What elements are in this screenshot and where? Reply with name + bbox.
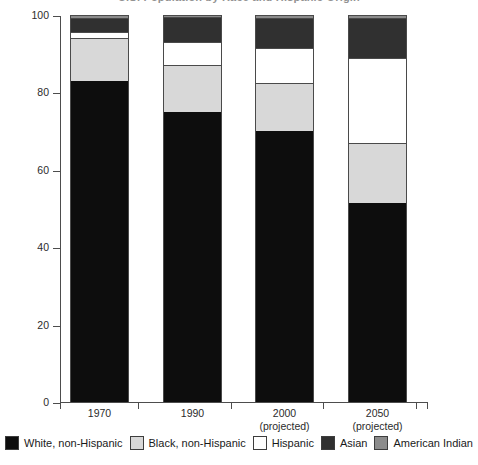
bar-segment[interactable] bbox=[348, 143, 407, 203]
y-axis-tick-label: 100 bbox=[31, 9, 49, 21]
x-axis-label-year: 2000 bbox=[273, 407, 296, 419]
legend-label: Black, non-Hispanic bbox=[149, 437, 246, 449]
legend-label: American Indian bbox=[393, 437, 473, 449]
x-axis-label-note: (projected) bbox=[328, 420, 428, 433]
bar-segment[interactable] bbox=[70, 81, 129, 402]
bar-segment[interactable] bbox=[70, 38, 129, 81]
y-axis-line bbox=[60, 16, 61, 403]
bar-segment[interactable] bbox=[255, 18, 314, 48]
x-axis-label-year: 2050 bbox=[366, 407, 389, 419]
legend-swatch-icon bbox=[5, 436, 19, 450]
x-axis-label: 1990 bbox=[143, 407, 243, 420]
legend-item[interactable]: American Indian bbox=[374, 436, 473, 450]
bar-1970[interactable] bbox=[70, 15, 129, 402]
bar-segment[interactable] bbox=[255, 131, 314, 402]
bar-1990[interactable] bbox=[163, 15, 222, 402]
y-axis-tick: 60 bbox=[53, 171, 60, 172]
y-axis-tick-label: 80 bbox=[37, 86, 49, 98]
x-axis-line bbox=[60, 402, 428, 403]
bar-segment[interactable] bbox=[255, 48, 314, 83]
bar-segment[interactable] bbox=[348, 18, 407, 57]
y-axis-tick: 40 bbox=[53, 248, 60, 249]
legend-label: Hispanic bbox=[272, 437, 314, 449]
x-axis-label-note: (projected) bbox=[235, 420, 335, 433]
y-axis-tick: 20 bbox=[53, 326, 60, 327]
chart-legend: White, non-HispanicBlack, non-HispanicHi… bbox=[0, 436, 478, 450]
legend-swatch-icon bbox=[374, 436, 388, 450]
legend-label: Asian bbox=[340, 437, 368, 449]
bar-segment[interactable] bbox=[348, 203, 407, 402]
x-axis-label: 1970 bbox=[50, 407, 150, 420]
bar-2000[interactable] bbox=[255, 15, 314, 402]
x-axis-label-year: 1970 bbox=[88, 407, 111, 419]
bar-segment[interactable] bbox=[255, 83, 314, 131]
legend-label: White, non-Hispanic bbox=[24, 437, 122, 449]
bar-segment[interactable] bbox=[163, 65, 222, 111]
y-axis-tick: 80 bbox=[53, 93, 60, 94]
x-axis-label-year: 1990 bbox=[181, 407, 204, 419]
bar-2050[interactable] bbox=[348, 15, 407, 402]
y-axis-tick-label: 20 bbox=[37, 319, 49, 331]
bar-segment[interactable] bbox=[348, 58, 407, 143]
bar-segment[interactable] bbox=[163, 42, 222, 65]
bar-segment[interactable] bbox=[163, 112, 222, 402]
legend-item[interactable]: Asian bbox=[321, 436, 368, 450]
y-axis-tick-label: 40 bbox=[37, 241, 49, 253]
y-axis-tick-label: 60 bbox=[37, 164, 49, 176]
bar-segment[interactable] bbox=[163, 17, 222, 42]
legend-swatch-icon bbox=[321, 436, 335, 450]
y-axis-tick-label: 0 bbox=[43, 396, 49, 408]
x-axis-label: 2050(projected) bbox=[328, 407, 428, 433]
legend-item[interactable]: Black, non-Hispanic bbox=[130, 436, 246, 450]
plot-area: Percent of Population 100806040200 bbox=[60, 16, 428, 403]
legend-swatch-icon bbox=[130, 436, 144, 450]
x-axis-label: 2000(projected) bbox=[235, 407, 335, 433]
y-axis-tick: 0 bbox=[53, 403, 60, 404]
legend-item[interactable]: White, non-Hispanic bbox=[5, 436, 122, 450]
chart-title: U.S. Population by Race and Hispanic Ori… bbox=[0, 0, 478, 3]
bar-segment[interactable] bbox=[70, 18, 129, 32]
y-axis-tick: 100 bbox=[53, 16, 60, 17]
legend-swatch-icon bbox=[253, 436, 267, 450]
legend-item[interactable]: Hispanic bbox=[253, 436, 314, 450]
